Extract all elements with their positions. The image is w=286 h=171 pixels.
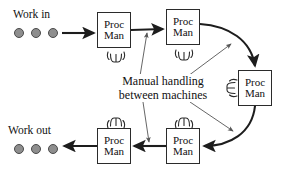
leader-line-top-right bbox=[188, 44, 231, 76]
process-box-proc-man-3[interactable]: Proc Man bbox=[238, 70, 272, 106]
leader-line-top-left bbox=[140, 33, 147, 76]
work-out-dot bbox=[48, 144, 58, 154]
work-in-dot bbox=[31, 28, 41, 38]
work-in-label: Work in bbox=[13, 8, 50, 20]
operator-icon-2 bbox=[174, 48, 194, 66]
process-box-label-line2: Man bbox=[104, 146, 124, 158]
leader-line-bottom-left bbox=[143, 102, 149, 142]
process-box-label-line2: Man bbox=[173, 27, 193, 39]
work-in-dot bbox=[14, 28, 24, 38]
callout-line-1: Manual handling bbox=[108, 74, 218, 88]
work-out-dot bbox=[14, 144, 24, 154]
process-flow-diagram: Work in Work out Proc Man Proc Man Proc … bbox=[0, 0, 286, 171]
operator-icon-3 bbox=[221, 78, 239, 98]
work-out-label: Work out bbox=[8, 124, 51, 136]
process-box-proc-man-2[interactable]: Proc Man bbox=[166, 9, 200, 45]
process-box-label-line2: Man bbox=[245, 88, 265, 100]
callout-line-2: between machines bbox=[108, 88, 218, 102]
process-box-label-line2: Man bbox=[173, 146, 193, 158]
process-box-proc-man-4[interactable]: Proc Man bbox=[166, 128, 200, 164]
leader-line-bottom-right bbox=[190, 102, 233, 131]
operator-icon-4 bbox=[174, 112, 194, 130]
operator-icon-5 bbox=[106, 112, 126, 130]
process-box-proc-man-5[interactable]: Proc Man bbox=[97, 128, 131, 164]
process-box-label-line2: Man bbox=[104, 30, 124, 42]
process-box-proc-man-1[interactable]: Proc Man bbox=[97, 12, 131, 48]
callout-manual-handling: Manual handling between machines bbox=[108, 74, 218, 102]
operator-icon-1 bbox=[106, 50, 126, 68]
work-out-dot bbox=[31, 144, 41, 154]
work-in-dot bbox=[48, 28, 58, 38]
